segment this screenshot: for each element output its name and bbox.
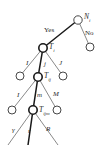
branch-M-level2: M — [53, 91, 59, 98]
no-label: No — [85, 30, 94, 37]
node-label-tijm: Tijm — [39, 106, 50, 116]
node-label-tij-subscript: ij — [48, 77, 51, 82]
node-label-ti-subscript: i — [53, 48, 54, 53]
branch-J-level1: J — [59, 60, 62, 67]
tree-node-level3-right — [53, 106, 61, 114]
tree-graphics — [0, 0, 111, 145]
tree-node-no-child — [86, 43, 94, 51]
yes-label: Yes — [44, 27, 54, 34]
branch-j-level1: j — [44, 61, 46, 68]
node-label-root-subscript: i — [89, 18, 90, 23]
tree-node-level3-left — [8, 106, 16, 114]
node-label-tijm-subscript: ijm — [43, 111, 49, 116]
branch-gamma-level3: γ — [12, 127, 15, 134]
branch-I-level2: I — [17, 92, 19, 99]
node-label-ti: Ti — [49, 43, 55, 53]
branch-m-level2: m — [37, 92, 42, 99]
branch-I-level1: I — [26, 60, 28, 67]
tree-node-level2-center — [34, 73, 42, 81]
branch-R-level3: R — [46, 126, 50, 133]
branch-r-level3: r — [28, 128, 31, 135]
tree-node-level2-right — [59, 72, 67, 80]
tree-node-level3-center — [29, 106, 37, 114]
node-label-tij: Tij — [44, 72, 51, 82]
node-label-root: Ni — [84, 13, 90, 23]
tree-edge-ti-to-j — [39, 52, 43, 73]
tree-node-root — [74, 16, 82, 24]
tree-diagram-figure: YesNoIjJImMγrR NiTiTijTijm — [0, 0, 111, 145]
tree-node-level2-left — [16, 72, 24, 80]
tree-node-level1-center — [39, 44, 47, 52]
